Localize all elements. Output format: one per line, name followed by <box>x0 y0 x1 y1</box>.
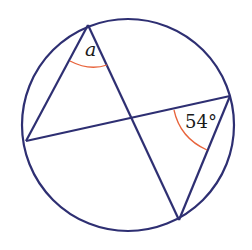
chord-top-left <box>26 25 88 141</box>
angle-label-54: 54° <box>185 111 217 132</box>
circle-angle-diagram: a 54° <box>0 0 252 250</box>
chord-top-bottom <box>88 25 179 220</box>
angle-label-a: a <box>85 38 96 60</box>
angle-arc-a <box>70 61 107 67</box>
